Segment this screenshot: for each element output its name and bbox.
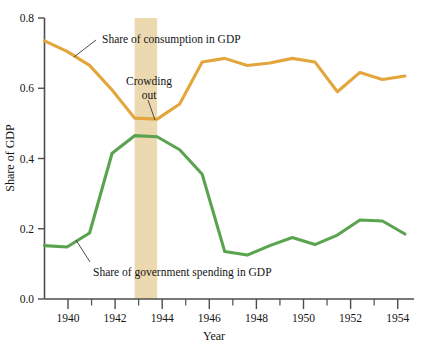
- x-tick-label-1948: 1948: [245, 312, 268, 324]
- annotation-crowding-out-line2: out: [142, 89, 158, 101]
- y-tick-label-1: 0.2: [20, 223, 35, 235]
- x-tick-label-1940: 1940: [57, 312, 80, 324]
- x-tick-label-1944: 1944: [151, 312, 174, 324]
- x-axis-title: Year: [203, 329, 225, 343]
- x-tick-label-1952: 1952: [339, 312, 362, 324]
- x-tick-label-1946: 1946: [198, 312, 221, 324]
- annotation-consumption: Share of consumption in GDP: [102, 33, 241, 46]
- chart-figure: 0.0 0.2 0.4 0.6 0.8 1940 1942: [0, 0, 422, 344]
- chart-svg: 0.0 0.2 0.4 0.6 0.8 1940 1942: [0, 0, 422, 344]
- annotation-government: Share of government spending in GDP: [93, 266, 272, 279]
- y-tick-label-3: 0.6: [20, 82, 35, 94]
- y-tick-label-4: 0.8: [20, 12, 35, 24]
- highlight-band-crowding-out: [135, 18, 158, 299]
- x-tick-label-1942: 1942: [104, 312, 127, 324]
- x-tick-label-1954: 1954: [386, 312, 409, 324]
- annotation-crowding-out-line1: Crowding: [126, 75, 172, 88]
- y-tick-label-2: 0.4: [20, 153, 35, 165]
- y-tick-label-0: 0.0: [20, 293, 35, 305]
- y-axis-title: Share of GDP: [3, 124, 17, 192]
- chart-background: [0, 0, 422, 344]
- x-tick-label-1950: 1950: [292, 312, 315, 324]
